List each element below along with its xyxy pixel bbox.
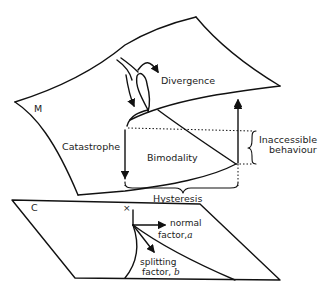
inaccessible-brace (248, 131, 256, 164)
label-catastrophe: Catastrophe (62, 142, 120, 152)
divergence-down-arrow (126, 75, 134, 106)
behaviour-surface-M (15, 17, 280, 195)
label-C: C (31, 203, 38, 213)
label-splitting-factor: factor, b (142, 268, 180, 277)
label-hysteresis: Hysteresis (153, 194, 202, 204)
label-M: M (34, 104, 42, 114)
normal-factor-text: factor, (158, 230, 187, 240)
hysteresis-brace (125, 183, 238, 193)
label-normal-factor: factor,a (158, 231, 193, 240)
divergence-arrow (138, 63, 158, 72)
cusp-catastrophe-diagram: M Divergence Catastrophe Bimodality Inac… (0, 0, 334, 295)
label-behaviour: behaviour (269, 145, 317, 155)
normal-var-a: a (187, 230, 192, 240)
label-divergence: Divergence (161, 76, 215, 86)
origin-marker: × (123, 204, 131, 213)
splitting-var-b: b (174, 267, 180, 277)
label-bimodality: Bimodality (147, 153, 198, 163)
splitting-factor-text: factor, (142, 267, 171, 277)
label-normal: normal (170, 219, 202, 228)
inaccessible-top-dotted (128, 128, 252, 131)
label-splitting: splitting (140, 258, 176, 267)
